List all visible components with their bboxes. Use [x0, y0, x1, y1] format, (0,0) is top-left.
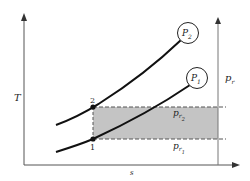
y-axis-arrow-icon — [21, 13, 27, 21]
x-axis-label: s — [130, 169, 134, 177]
point-1-label: 1 — [90, 143, 95, 152]
point-1 — [90, 136, 95, 141]
right-axis-label: pr — [225, 72, 235, 85]
point-2 — [90, 104, 95, 109]
x-axis-arrow-icon — [232, 162, 240, 168]
shaded-region — [93, 107, 218, 139]
y-axis-label: T — [14, 92, 22, 103]
point-2-label: 2 — [90, 96, 95, 105]
pr1-label: pr1 — [173, 141, 185, 155]
right-axis-arrow-icon — [215, 17, 221, 24]
ts-diagram: T s pr P2 P1 2 1 pr2 pr1 — [0, 0, 250, 181]
